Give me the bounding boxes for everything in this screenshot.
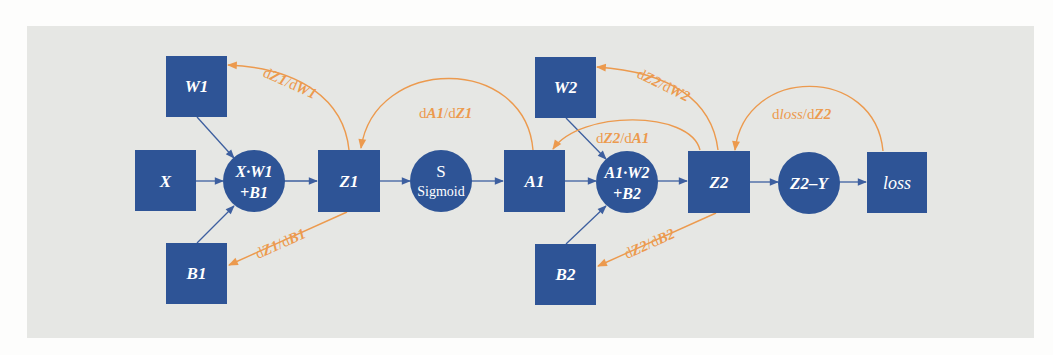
edge-w1-to-lin1 xyxy=(197,117,234,158)
node-b2-label: B2 xyxy=(555,265,576,284)
node-difference: Z2–Y xyxy=(778,152,840,214)
node-w2: W2 xyxy=(535,57,596,118)
grad-label-dz2-da1: dZ2/dA1 xyxy=(596,130,649,146)
node-b1: B1 xyxy=(166,243,227,304)
grad-label-dz1-db1: dZ1/dB1 xyxy=(253,225,308,261)
node-x-label: X xyxy=(159,172,172,191)
node-loss: loss xyxy=(867,152,927,213)
figure: dZ1/dW1 dA1/dZ1 dZ1/dB1 dZ2/dW2 dZ2/dA1 … xyxy=(0,0,1053,355)
node-b2: B2 xyxy=(535,244,596,305)
node-sigmoid: S Sigmoid xyxy=(410,150,472,212)
grad-label-da1-dz1: dA1/dZ1 xyxy=(419,105,472,121)
node-difference-label: Z2–Y xyxy=(789,174,829,193)
node-a1: A1 xyxy=(504,150,565,212)
edge-b2-to-lin2 xyxy=(566,206,606,244)
node-linear-1-line2: +B1 xyxy=(240,184,268,201)
node-sigmoid-name: Sigmoid xyxy=(417,184,464,199)
node-b1-label: B1 xyxy=(186,264,207,283)
node-w2-label: W2 xyxy=(554,78,578,97)
grad-label-dz2-db2: dZ2/dB2 xyxy=(622,225,678,262)
node-linear-2-line2: +B2 xyxy=(613,185,641,202)
node-w1-label: W1 xyxy=(185,77,209,96)
node-w1: W1 xyxy=(166,56,227,117)
node-linear-2-line1: A1·W2 xyxy=(604,164,650,181)
node-a1-label: A1 xyxy=(524,172,545,191)
node-linear-1: X·W1 +B1 xyxy=(223,150,285,212)
edge-b1-to-lin1 xyxy=(197,206,234,243)
grad-label-dz1-dw1: dZ1/dW1 xyxy=(261,64,319,102)
node-z1: Z1 xyxy=(318,150,380,212)
computational-graph: dZ1/dW1 dA1/dZ1 dZ1/dB1 dZ2/dW2 dZ2/dA1 … xyxy=(0,0,1053,355)
node-sigmoid-symbol: S xyxy=(436,162,445,181)
node-z1-label: Z1 xyxy=(339,172,359,191)
node-z2: Z2 xyxy=(688,151,750,213)
node-z2-label: Z2 xyxy=(709,173,729,192)
nodes: W1 X B1 X·W1 +B1 Z1 xyxy=(135,56,927,305)
grad-label-dloss-dz2: dloss/dZ2 xyxy=(772,106,832,122)
node-x: X xyxy=(135,150,196,211)
grad-label-dz2-dw2: dZ2/dW2 xyxy=(635,65,693,104)
node-loss-label: loss xyxy=(883,173,911,193)
node-linear-2: A1·W2 +B2 xyxy=(596,151,658,213)
node-linear-1-line1: X·W1 xyxy=(235,163,273,180)
